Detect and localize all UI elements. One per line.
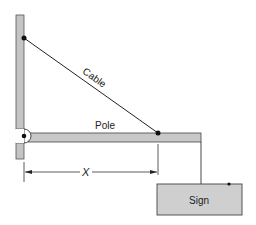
- sign-support-diagram: Cable Pole Sign X: [0, 0, 256, 225]
- pole-label: Pole: [95, 120, 115, 131]
- cable-wall-anchor: [22, 36, 27, 41]
- dimension-arrow-right: [150, 170, 157, 174]
- sign-label: Sign: [189, 195, 209, 206]
- cable-pole-anchor: [156, 131, 161, 136]
- dimension-arrow-left: [25, 170, 32, 174]
- sign-dot: [227, 182, 230, 185]
- wall-lower: [16, 143, 24, 159]
- cable-label: Cable: [81, 65, 109, 89]
- hinge-pin: [22, 134, 27, 139]
- cable: [24, 38, 158, 133]
- dimension-label: X: [81, 166, 90, 178]
- pole: [28, 133, 201, 142]
- wall: [16, 15, 24, 129]
